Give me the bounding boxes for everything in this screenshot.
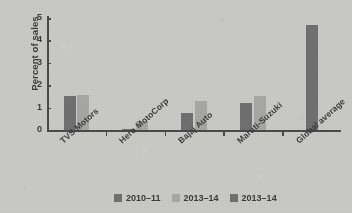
y-tick-label: 0 bbox=[20, 124, 42, 134]
y-tick-label: 4 bbox=[20, 34, 42, 44]
legend-label: 2013–14 bbox=[184, 193, 219, 203]
legend-item[interactable]: 2013–14 bbox=[172, 193, 219, 203]
y-tick-label: 2 bbox=[20, 79, 42, 89]
x-tick-mark bbox=[223, 131, 225, 136]
x-tick-mark bbox=[106, 131, 108, 136]
legend-item[interactable]: 2013–14 bbox=[230, 193, 277, 203]
chart-legend: 2010–112013–142013–14 bbox=[114, 193, 277, 203]
chart-screenshot: Percent of sales 012345 TVS MotorsHero M… bbox=[0, 0, 352, 213]
legend-item[interactable]: 2010–11 bbox=[114, 193, 161, 203]
y-tick-label: 1 bbox=[20, 102, 42, 112]
legend-label: 2013–14 bbox=[242, 193, 277, 203]
y-tick-label: 5 bbox=[20, 12, 42, 22]
x-tick-mark bbox=[165, 131, 167, 136]
legend-label: 2010–11 bbox=[126, 193, 161, 203]
y-tick-mark bbox=[47, 130, 51, 132]
legend-swatch-icon bbox=[114, 194, 122, 202]
y-tick-label: 3 bbox=[20, 57, 42, 67]
legend-swatch-icon bbox=[230, 194, 238, 202]
legend-swatch-icon bbox=[172, 194, 180, 202]
x-tick-mark bbox=[282, 131, 284, 136]
bar bbox=[306, 25, 318, 130]
